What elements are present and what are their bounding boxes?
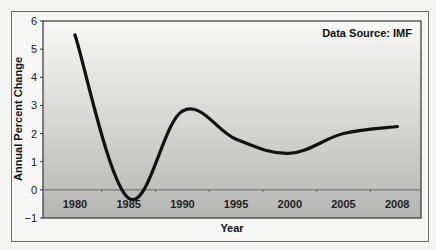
- data-source-annotation: Data Source: IMF: [322, 27, 412, 39]
- data-point-2000: [288, 152, 291, 155]
- x-tick-label: 2000: [278, 198, 302, 210]
- y-tick-label: 1: [31, 156, 37, 168]
- y-tick-label: 0: [31, 184, 37, 196]
- data-point-2008: [396, 125, 399, 128]
- plot-area: [43, 21, 421, 218]
- y-tick-label: 6: [31, 15, 37, 27]
- x-tick-label: 1990: [170, 198, 194, 210]
- line-chart: −10123456 1980198519901995200020052008 D…: [0, 0, 436, 250]
- data-point-1985: [127, 197, 130, 200]
- data-point-2005: [342, 132, 345, 135]
- y-tick-label: −1: [24, 212, 37, 224]
- y-tick-label: 3: [31, 99, 37, 111]
- y-axis-title: Annual Percent Change: [12, 57, 24, 181]
- data-point-1995: [235, 138, 238, 141]
- x-tick-label: 2008: [385, 198, 409, 210]
- x-tick-label: 2005: [331, 198, 355, 210]
- data-point-1980: [74, 34, 77, 37]
- y-axis: −10123456: [24, 15, 43, 224]
- x-axis-title: Year: [220, 222, 244, 234]
- data-point-1990: [181, 110, 184, 113]
- x-tick-label: 1995: [224, 198, 248, 210]
- y-tick-label: 5: [31, 43, 37, 55]
- y-tick-label: 4: [31, 71, 37, 83]
- x-tick-label: 1980: [63, 198, 87, 210]
- y-tick-label: 2: [31, 128, 37, 140]
